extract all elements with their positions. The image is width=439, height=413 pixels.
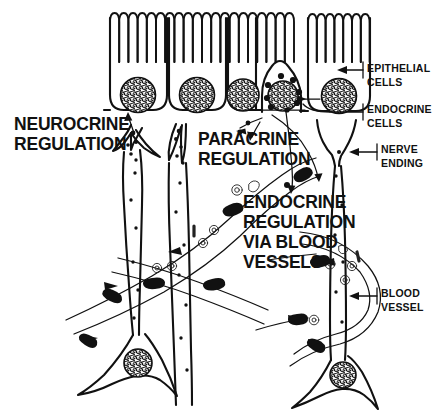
callout-nerve-line-2: ENDING: [381, 157, 423, 169]
neurocrine-line-1: NEUROCRINE: [14, 114, 130, 134]
label-paracrine-regulation: PARACRINE REGULATION: [198, 129, 310, 169]
paracrine-line-1: PARACRINE: [198, 129, 299, 149]
paracrine-line-2: REGULATION: [198, 149, 310, 169]
label-neurocrine-regulation: NEUROCRINE REGULATION: [14, 114, 130, 154]
callout-epithelial-line-2: CELLS: [367, 76, 402, 88]
neurocrine-line-2: REGULATION: [14, 134, 126, 154]
endocrine-line-2: REGULATION: [243, 212, 355, 232]
regulation-diagram: NEUROCRINE REGULATION PARACRINE REGULATI…: [0, 0, 439, 413]
endocrine-line-1: ENDOCRINE: [243, 192, 346, 212]
microvilli-brush-border-left: [110, 13, 294, 62]
endocrine-line-4: VESSELS: [243, 252, 322, 272]
callout-blood-line-2: VESSEL: [381, 301, 424, 313]
callout-epithelial-line-1: EPITHELIAL: [367, 62, 431, 74]
callout-blood-line-1: BLOOD: [381, 287, 420, 299]
callout-endocrine-line-2: CELLS: [367, 117, 402, 129]
callout-nerve-line-1: NERVE: [381, 143, 418, 155]
callout-endocrine-line-1: ENDOCRINE: [367, 103, 432, 115]
endocrine-line-3: VIA BLOOD: [243, 232, 338, 252]
